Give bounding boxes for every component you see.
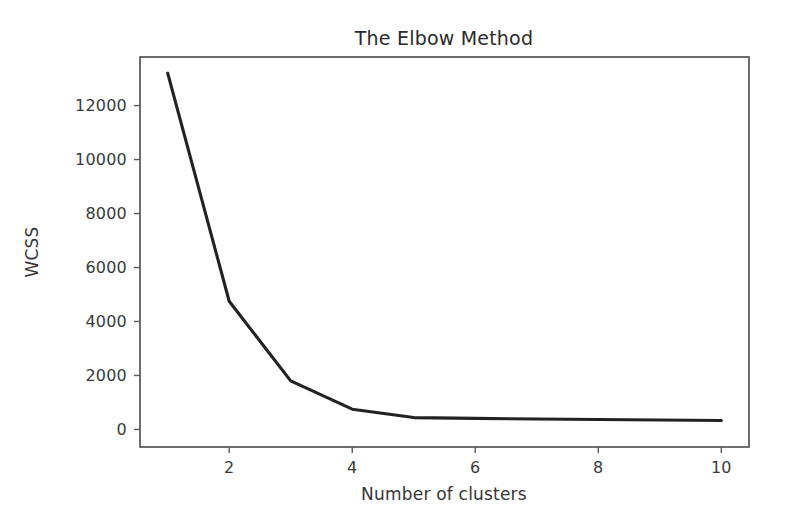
y-tick-label: 12000	[75, 96, 127, 115]
x-axis-label: Number of clusters	[361, 484, 527, 504]
x-tick-label: 6	[470, 458, 480, 477]
x-tick-label: 10	[711, 458, 732, 477]
y-axis-label: WCSS	[22, 226, 42, 277]
y-axis-ticks: 020004000600080001000012000	[75, 96, 140, 439]
x-axis-ticks: 246810	[224, 447, 732, 477]
x-tick-label: 8	[593, 458, 603, 477]
y-tick-label: 4000	[85, 312, 127, 331]
y-tick-label: 10000	[75, 150, 127, 169]
chart-title: The Elbow Method	[354, 27, 533, 49]
elbow-method-chart: The Elbow Method 02000400060008000100001…	[0, 0, 785, 522]
y-tick-label: 0	[117, 420, 127, 439]
x-tick-label: 4	[347, 458, 357, 477]
y-tick-label: 2000	[85, 366, 127, 385]
plot-area-background	[140, 57, 749, 447]
figure-canvas: The Elbow Method 02000400060008000100001…	[0, 0, 785, 522]
y-tick-label: 6000	[85, 258, 127, 277]
x-tick-label: 2	[224, 458, 234, 477]
y-tick-label: 8000	[85, 204, 127, 223]
